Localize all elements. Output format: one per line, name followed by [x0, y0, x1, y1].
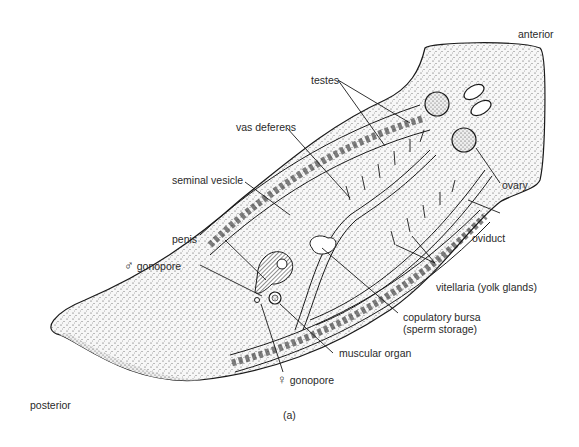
figure-caption: (a) [283, 409, 296, 421]
label-muscular-organ: muscular organ [339, 347, 411, 359]
female-symbol-icon: ♀ [277, 372, 287, 387]
ovary-sphere [452, 128, 476, 152]
label-seminal-vesicle: seminal vesicle [172, 174, 243, 186]
label-testes: testes [311, 74, 339, 86]
label-vas-deferens: vas deferens [236, 121, 296, 133]
label-anterior: anterior [518, 28, 554, 40]
label-copulatory-bursa: copulatory bursa (sperm storage) [403, 311, 481, 335]
label-male-gonopore: ♂gonopore [124, 260, 181, 272]
gonopore-opening [255, 298, 260, 303]
testis-sphere [425, 92, 449, 116]
label-vitellaria: vitellaria (yolk glands) [436, 281, 537, 293]
label-penis: penis [172, 233, 197, 245]
label-oviduct: oviduct [472, 232, 505, 244]
male-symbol-icon: ♂ [124, 258, 134, 273]
label-posterior: posterior [30, 399, 71, 411]
label-female-gonopore: ♀gonopore [277, 374, 334, 386]
label-ovary: ovary [502, 179, 528, 191]
diagram-stage: anterior posterior testes vas deferens s… [0, 0, 579, 447]
